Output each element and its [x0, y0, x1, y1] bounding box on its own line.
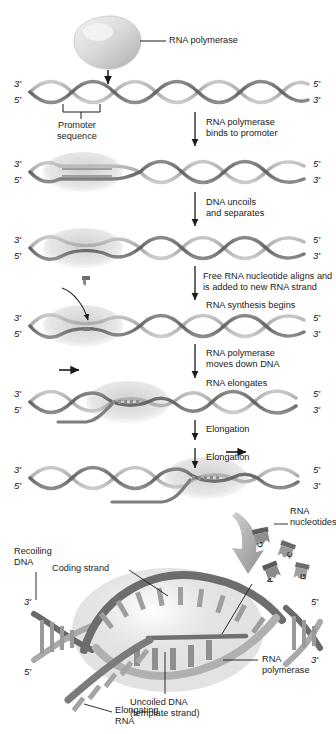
elongating-rna-label: Elongating RNA — [115, 705, 158, 727]
step-1-caption: RNA polymerase binds to promoter — [206, 117, 278, 140]
row-4-right-bottom-prime: 3ʹ — [313, 328, 320, 339]
row-6-left-bottom-prime: 5ʹ — [14, 480, 21, 491]
row-3-left-bottom-prime: 5ʹ — [14, 250, 21, 261]
row-4-right-top-prime: 5ʹ — [313, 312, 320, 323]
row-1-right-bottom-prime: 3ʹ — [313, 94, 320, 105]
row-2-left-top-prime: 3ʹ — [14, 158, 21, 169]
row-2-right-bottom-prime: 3ʹ — [313, 174, 320, 185]
rna-polymerase-label: RNA polymerase — [169, 35, 238, 46]
row-2-left-bottom-prime: 5ʹ — [14, 174, 21, 185]
step-4-caption: RNA polymerase moves down DNA — [206, 348, 280, 371]
row-6-right-bottom-prime: 3ʹ — [313, 480, 320, 491]
nucleotide-letter-g2: G — [298, 573, 308, 581]
row-3-right-top-prime: 5ʹ — [313, 234, 320, 245]
dna-row-6 — [30, 457, 298, 502]
free-nucleotide-symbol — [82, 276, 90, 286]
row-6-right-top-prime: 5ʹ — [313, 464, 320, 475]
row-6-left-top-prime: 3ʹ — [14, 464, 21, 475]
row-1-left-top-prime: 3ʹ — [14, 78, 21, 89]
coding-strand — [84, 575, 282, 650]
step-3-caption: Free RNA nucleotide aligns and is added … — [203, 271, 332, 294]
promoter-bracket — [63, 104, 100, 119]
row-5-left-bottom-prime: 5ʹ — [14, 404, 21, 415]
uncoiled-template-strand — [96, 618, 276, 676]
detail-right-bottom-prime: 3ʹ — [311, 654, 318, 665]
row-5-right-top-prime: 5ʹ — [313, 388, 320, 399]
detail-left-bottom-prime: 5ʹ — [24, 666, 31, 677]
dna-row-3 — [30, 228, 304, 268]
step-3b-caption: RNA synthesis begins — [206, 300, 295, 311]
nucleotide-letter-g1: G — [255, 541, 265, 548]
recoiling-dna-label: Recoiling DNA — [14, 546, 52, 568]
step-6-caption: Elongation — [206, 452, 249, 463]
rna-nucleotides-label: RNA nucleotides — [290, 506, 336, 528]
row-1-right-top-prime: 5ʹ — [313, 78, 320, 89]
promoter-sequence-label: Promoter sequence — [57, 120, 97, 142]
detail-left-top-prime: 3ʹ — [24, 596, 31, 607]
row-2-right-top-prime: 5ʹ — [313, 158, 320, 169]
row-3-right-bottom-prime: 3ʹ — [313, 250, 320, 261]
step-4b-caption: RNA elongates — [206, 378, 267, 389]
row-4-left-bottom-prime: 5ʹ — [14, 328, 21, 339]
recoiling-dna — [34, 614, 92, 660]
nucleotide-letter-a: A — [265, 576, 275, 584]
row-4-left-top-prime: 3ʹ — [14, 312, 21, 323]
step-2-caption: DNA uncoils and separates — [206, 197, 264, 220]
step-5-caption: Elongation — [206, 424, 249, 435]
row-1-left-bottom-prime: 5ʹ — [14, 94, 21, 105]
dna-row-1 — [30, 82, 308, 103]
row-3-left-top-prime: 3ʹ — [14, 234, 21, 245]
dna-row-2 — [30, 152, 304, 192]
row-5-left-top-prime: 3ʹ — [14, 388, 21, 399]
detail-panel — [34, 524, 320, 712]
detail-right-top-prime: 5ʹ — [311, 596, 318, 607]
coding-strand-label: Coding strand — [52, 563, 109, 574]
rna-polymerase-blob-top — [74, 16, 141, 69]
nucleotide-letter-c: C — [285, 550, 295, 558]
row-5-right-bottom-prime: 3ʹ — [313, 404, 320, 415]
rna-polymerase-detail-label: RNA polymerase — [262, 654, 310, 676]
